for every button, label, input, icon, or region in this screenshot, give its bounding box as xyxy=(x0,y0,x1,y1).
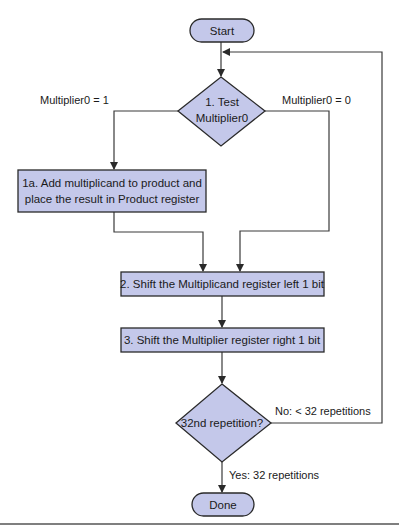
node-add-label-line2: place the result in Product register xyxy=(25,193,200,205)
node-repeat-label: 32nd repetition? xyxy=(181,417,263,429)
label-repeat-no: No: < 32 repetitions xyxy=(275,405,371,417)
multiplication-flowchart: Multiplier0 = 1 Multiplier0 = 0 No: < 32… xyxy=(0,0,399,530)
node-add-multiplicand: 1a. Add multiplicand to product and plac… xyxy=(18,170,206,212)
node-done-label: Done xyxy=(209,499,237,511)
node-test-label-line2: Multiplier0 xyxy=(196,112,248,124)
node-shift-right-label: 3. Shift the Multiplier register right 1… xyxy=(124,334,321,346)
node-shift-left-label: 2. Shift the Multiplicand register left … xyxy=(120,278,325,290)
node-add-label-line1: 1a. Add multiplicand to product and xyxy=(22,177,202,189)
node-start-label: Start xyxy=(210,25,235,37)
node-done: Done xyxy=(192,493,254,516)
edge-test-false xyxy=(240,111,329,271)
label-multiplier0-eq-1: Multiplier0 = 1 xyxy=(40,94,109,106)
edge-add-to-shift-left xyxy=(114,212,203,271)
node-32nd-repetition: 32nd repetition? xyxy=(176,384,271,462)
node-shift-multiplier-right: 3. Shift the Multiplier register right 1… xyxy=(121,328,324,352)
label-multiplier0-eq-0: Multiplier0 = 0 xyxy=(282,94,351,106)
node-test-label-line1: 1. Test xyxy=(205,96,239,108)
node-shift-multiplicand-left: 2. Shift the Multiplicand register left … xyxy=(120,272,325,296)
node-test-multiplier0: 1. Test Multiplier0 xyxy=(178,77,265,146)
node-start: Start xyxy=(190,19,254,42)
edge-test-true xyxy=(114,111,178,169)
label-repeat-yes: Yes: 32 repetitions xyxy=(229,469,320,481)
